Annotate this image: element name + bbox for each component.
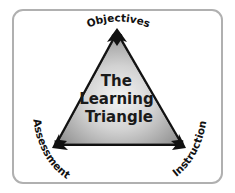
center-title-line-1: The: [101, 72, 132, 90]
center-title-line-2: Learning: [79, 90, 154, 108]
center-title-line-3: Triangle: [85, 108, 153, 126]
learning-triangle-diagram: The Learning Triangle Objectives Assessm…: [0, 0, 235, 193]
